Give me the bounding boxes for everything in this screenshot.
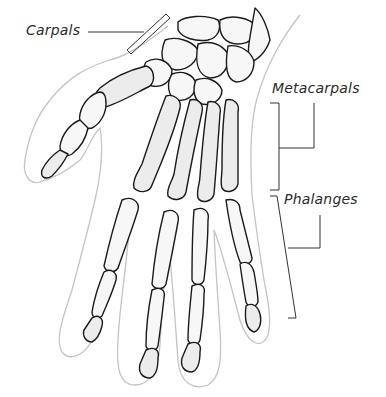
ring-finger-bones <box>181 208 208 372</box>
metacarpals-label: Metacarpals <box>272 80 360 96</box>
carpals-label: Carpals <box>26 22 80 38</box>
middle-finger-bones <box>139 210 178 378</box>
phalanges-label: Phalanges <box>284 191 358 207</box>
hand-skeleton-diagram: Carpals Metacarpals Phalanges <box>0 0 386 397</box>
carpal-bones <box>143 8 270 104</box>
metacarpals-pointer <box>270 103 314 190</box>
thumb-bones <box>42 66 154 178</box>
metacarpal-bones <box>134 96 239 202</box>
phalanges-pointer <box>270 196 320 318</box>
index-finger-bones <box>83 198 138 342</box>
